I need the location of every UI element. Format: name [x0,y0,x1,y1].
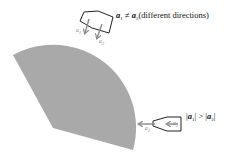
direction-relation-text: a1 ≠ a2(different directions) [116,11,209,21]
diagram-canvas [0,0,230,158]
gray-sector [13,45,136,150]
right-arrow-a2-label: a2 [173,121,178,128]
top-arrow-a2-label: a2 [99,39,104,46]
top-arrow-a1-label: a1 [76,28,81,35]
right-arrow-a1-label: a1 [145,126,150,133]
top-object-outline [80,11,113,33]
magnitude-relation-text: |a1| > |a2| [186,112,215,122]
